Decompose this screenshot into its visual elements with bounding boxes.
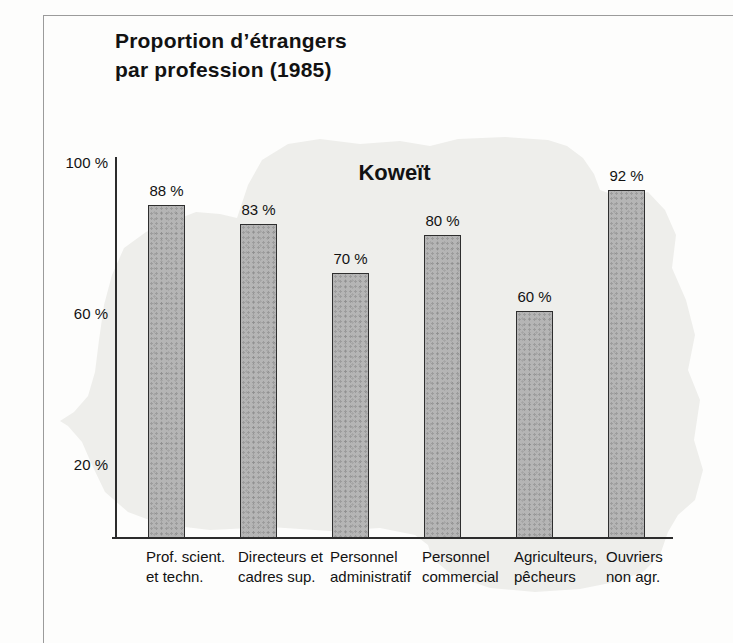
y-tick-label: 60 %	[38, 304, 108, 324]
bar-value-label: 80 %	[408, 212, 478, 230]
bar-chart: Koweït 100 %60 %20 % 88 %83 %70 %80 %60 …	[0, 0, 733, 643]
bar-value-label: 60 %	[500, 288, 570, 306]
y-tick-label: 100 %	[38, 153, 108, 173]
bar	[240, 224, 277, 538]
bar-value-label: 83 %	[224, 201, 294, 219]
x-axis-category-label-line: Ouvriers	[606, 547, 718, 567]
bar-value-label: 92 %	[592, 167, 662, 185]
y-tick-label: 20 %	[38, 455, 108, 475]
figure-page: Proportion d’étrangers par profession (1…	[0, 0, 733, 643]
bar-value-label: 70 %	[316, 250, 386, 268]
y-axis	[115, 157, 117, 538]
x-axis	[112, 537, 673, 539]
x-axis-category-label: Ouvriersnon agr.	[606, 547, 718, 586]
bar	[148, 205, 185, 538]
bar	[332, 273, 369, 538]
bar	[424, 235, 461, 538]
bar	[516, 311, 553, 538]
bar-value-label: 88 %	[132, 182, 202, 200]
x-axis-category-label-line: non agr.	[606, 567, 718, 587]
bar	[608, 190, 645, 538]
